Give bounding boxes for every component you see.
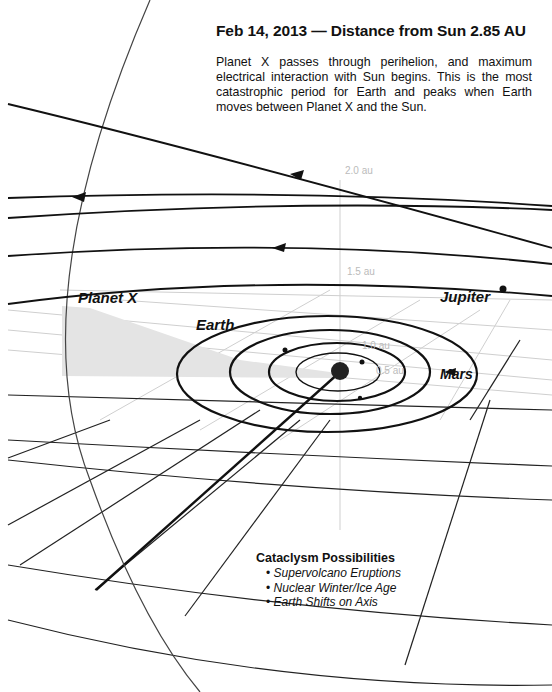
mercury-dot	[360, 360, 365, 365]
axis-label-2au: 2.0 au	[345, 165, 373, 176]
earth-dot	[283, 348, 288, 353]
planet-x-label: Planet X	[78, 289, 137, 306]
axis-label-1au: 1.0 au	[362, 340, 390, 351]
cataclysm-heading: Cataclysm Possibilities	[256, 551, 401, 565]
jupiter-dot	[500, 286, 507, 293]
cataclysm-item: Earth Shifts on Axis	[266, 595, 401, 610]
page-title: Feb 14, 2013 — Distance from Sun 2.85 AU	[216, 22, 526, 40]
mars-label: Mars	[440, 366, 473, 382]
venus-dot	[358, 396, 362, 400]
cataclysm-item: Nuclear Winter/Ice Age	[266, 581, 401, 596]
cataclysm-list: Supervolcano Eruptions Nuclear Winter/Ic…	[256, 566, 401, 610]
jupiter-label: Jupiter	[440, 288, 490, 305]
description-text: Planet X passes through perihelion, and …	[216, 55, 532, 115]
cataclysm-item: Supervolcano Eruptions	[266, 566, 401, 581]
sun	[331, 362, 349, 380]
axis-label-0-5au: 0.5 au	[376, 365, 404, 376]
upper-orbits	[8, 104, 552, 304]
cataclysm-box: Cataclysm Possibilities Supervolcano Eru…	[256, 551, 401, 610]
axis-label-1-5au: 1.5 au	[347, 266, 375, 277]
earth-label: Earth	[196, 316, 234, 333]
